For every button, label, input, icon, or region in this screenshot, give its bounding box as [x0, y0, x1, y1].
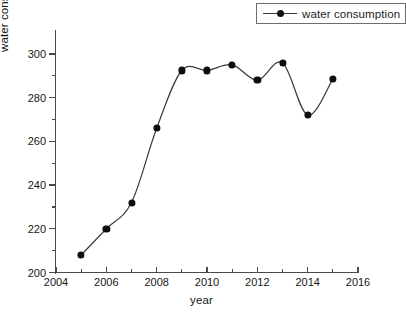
x-axis-tick-minor [181, 269, 182, 273]
x-axis-tick-label: 2014 [295, 276, 319, 288]
legend-line-marker-sample [263, 9, 297, 19]
data-point-marker [329, 76, 336, 83]
y-axis-tick-label: 220 [0, 223, 46, 235]
x-axis-tick-label: 2012 [245, 276, 269, 288]
legend-marker-icon [277, 10, 284, 17]
x-axis-tick-label: 2008 [144, 276, 168, 288]
data-point-marker [178, 67, 185, 74]
y-axis-tick-minor [52, 206, 56, 207]
x-axis-tick-major [106, 267, 107, 273]
y-axis-tick-label: 240 [0, 179, 46, 191]
y-axis-tick-major [49, 97, 56, 98]
data-point-marker [279, 59, 286, 66]
y-axis-tick-minor [52, 119, 56, 120]
x-axis-tick-major [206, 267, 207, 273]
y-axis-tick-label: 300 [0, 48, 46, 60]
y-axis-tick-major [49, 53, 56, 54]
y-axis-tick-minor [52, 163, 56, 164]
x-axis-tick-minor [282, 269, 283, 273]
x-axis-tick-label: 2016 [346, 276, 370, 288]
x-axis-tick-major [257, 267, 258, 273]
x-axis-tick-label: 2010 [195, 276, 219, 288]
data-point-marker [78, 251, 85, 258]
x-axis-title: year [0, 294, 403, 306]
x-axis-tick-minor [232, 269, 233, 273]
y-axis-tick-label: 260 [0, 135, 46, 147]
x-axis-tick-major [55, 267, 56, 273]
data-point-marker [153, 125, 160, 132]
y-axis-title-text: water consumption(10 [0, 0, 10, 52]
series-line-water-consumption [81, 62, 333, 255]
y-axis-tick-major [49, 184, 56, 185]
data-point-marker [229, 61, 236, 68]
x-axis-tick-major [307, 267, 308, 273]
data-point-marker [128, 199, 135, 206]
x-axis-tick-minor [81, 269, 82, 273]
y-axis-line [55, 30, 56, 274]
x-axis-tick-label: 2006 [94, 276, 118, 288]
y-axis-title: water consumption(108m3) [0, 0, 10, 52]
data-point-marker [254, 77, 261, 84]
y-axis-tick-minor [52, 75, 56, 76]
data-point-marker [103, 225, 110, 232]
data-point-marker [203, 67, 210, 74]
legend-entry-label: water consumption [302, 8, 400, 20]
y-axis-tick-label: 280 [0, 92, 46, 104]
y-axis-tick-minor [52, 250, 56, 251]
x-axis-tick-major [357, 267, 358, 273]
data-point-marker [304, 112, 311, 119]
x-axis-tick-minor [131, 269, 132, 273]
x-axis-tick-minor [332, 269, 333, 273]
y-axis-tick-major [49, 228, 56, 229]
y-axis-tick-major [49, 141, 56, 142]
x-axis-tick-label: 2004 [44, 276, 68, 288]
y-axis-tick-label: 200 [0, 267, 46, 279]
x-axis-tick-major [156, 267, 157, 273]
chart-legend: water consumption [256, 3, 406, 24]
